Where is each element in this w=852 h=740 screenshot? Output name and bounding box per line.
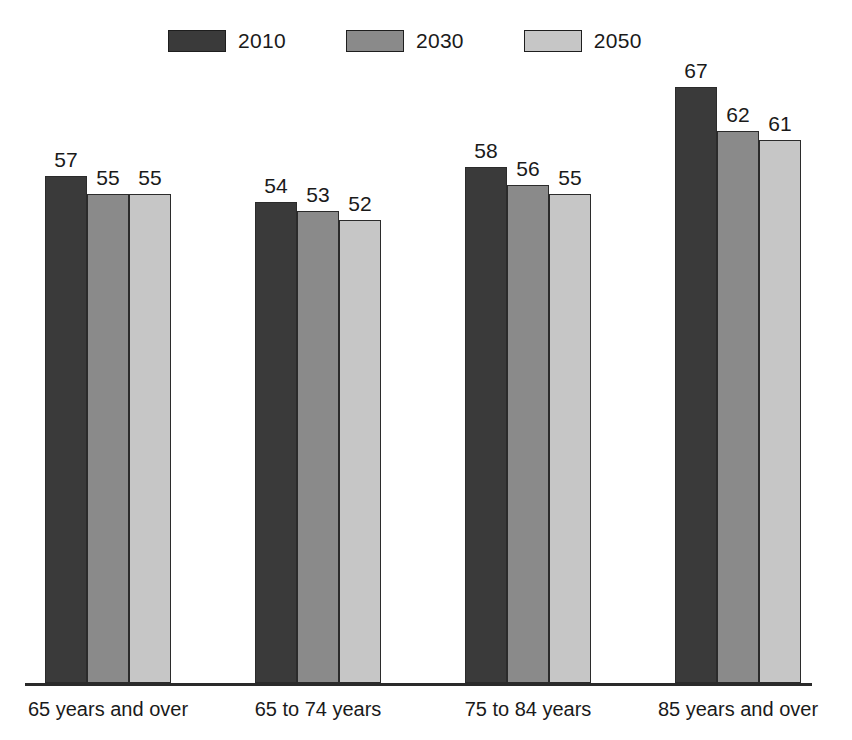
bar	[717, 131, 759, 683]
bar-value-label: 52	[329, 193, 391, 214]
category-label: 65 years and over	[0, 697, 218, 721]
bar	[549, 194, 591, 684]
category-label: 75 to 84 years	[418, 697, 638, 721]
bar	[129, 194, 171, 684]
bar-chart: 2010 2030 2050 575555545352585655676261 …	[0, 0, 852, 740]
bar	[87, 194, 129, 684]
bar	[507, 185, 549, 683]
category-label: 65 to 74 years	[208, 697, 428, 721]
x-axis-baseline	[25, 683, 812, 686]
plot-area: 575555545352585655676261 65 years and ov…	[0, 0, 852, 740]
bar	[465, 167, 507, 683]
bar	[297, 211, 339, 683]
bar-value-label: 61	[749, 113, 811, 134]
category-label: 85 years and over	[628, 697, 848, 721]
bar-value-label: 55	[539, 167, 601, 188]
bar	[45, 176, 87, 683]
bar	[339, 220, 381, 683]
bar	[759, 140, 801, 683]
bar	[675, 87, 717, 683]
bar-value-label: 67	[665, 60, 727, 81]
bar	[255, 202, 297, 683]
bar-value-label: 55	[119, 167, 181, 188]
